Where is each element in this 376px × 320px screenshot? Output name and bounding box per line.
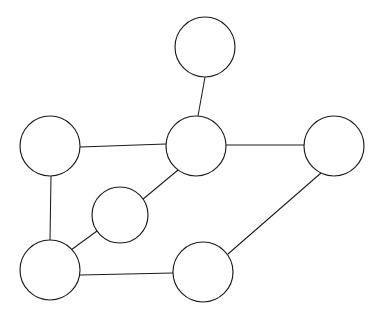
graph-node — [166, 116, 226, 176]
graph-edge — [50, 176, 51, 240]
node-circle — [92, 187, 148, 243]
graph-diagram-figure — [0, 0, 376, 320]
graph-canvas — [0, 0, 376, 320]
graph-edge — [71, 231, 97, 250]
graph-node — [304, 116, 364, 176]
node-circle — [20, 240, 80, 300]
graph-node — [20, 240, 80, 300]
graph-node — [92, 187, 148, 243]
node-circle — [173, 242, 233, 302]
graph-node — [173, 242, 233, 302]
graph-edge — [228, 173, 321, 254]
graph-node — [20, 116, 80, 176]
graph-edge — [198, 77, 205, 116]
nodes-layer — [20, 17, 364, 302]
node-circle — [20, 116, 80, 176]
graph-edge — [80, 144, 166, 147]
node-circle — [175, 17, 235, 77]
node-circle — [304, 116, 364, 176]
node-circle — [166, 116, 226, 176]
edges-layer — [50, 77, 321, 275]
graph-node — [175, 17, 235, 77]
graph-edge — [142, 170, 178, 200]
graph-edge — [80, 273, 173, 275]
